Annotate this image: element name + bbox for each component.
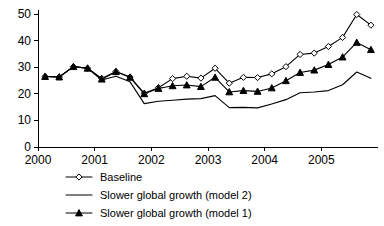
data-point-marker <box>339 34 345 40</box>
legend-item-3[interactable]: Slower global growth (model 1) <box>66 207 252 219</box>
line-chart: 01020304050 200020012002200320042005 Bas… <box>0 0 384 226</box>
y-tick-label: 20 <box>18 87 32 101</box>
data-point-marker <box>184 73 190 79</box>
legend-marker-diamond-icon <box>76 174 82 180</box>
x-axis-ticks: 200020012002200320042005 <box>25 147 335 167</box>
data-point-marker <box>311 67 318 73</box>
legend-item-label: Baseline <box>100 171 142 183</box>
chart-container: 01020304050 200020012002200320042005 Bas… <box>0 0 384 226</box>
data-point-marker <box>254 74 260 80</box>
data-point-marker <box>169 76 175 82</box>
y-tick-label: 30 <box>18 60 32 74</box>
data-point-marker <box>325 43 331 49</box>
chart-legend: BaselineSlower global growth (model 2)Sl… <box>66 171 252 219</box>
series-line <box>45 42 371 93</box>
data-point-marker <box>269 71 275 77</box>
data-point-marker <box>240 74 246 80</box>
x-tick-label: 2002 <box>138 153 165 167</box>
y-tick-label: 40 <box>18 34 32 48</box>
y-tick-label: 0 <box>24 140 31 154</box>
data-point-marker <box>212 74 219 80</box>
series-layer <box>42 11 375 107</box>
data-point-marker <box>353 39 360 45</box>
y-tick-label: 50 <box>18 7 32 21</box>
data-point-marker <box>325 61 332 67</box>
data-point-marker <box>311 50 317 56</box>
data-point-marker <box>283 77 290 83</box>
x-tick-label: 2000 <box>25 153 52 167</box>
y-tick-label: 10 <box>18 113 32 127</box>
legend-item-label: Slower global growth (model 2) <box>100 189 252 201</box>
legend-item-label: Slower global growth (model 1) <box>100 207 252 219</box>
data-point-marker <box>268 85 275 91</box>
series-3 <box>42 39 375 97</box>
x-tick-label: 2003 <box>195 153 222 167</box>
data-point-marker <box>368 46 375 52</box>
series-1 <box>42 11 374 96</box>
x-tick-label: 2004 <box>251 153 278 167</box>
x-tick-label: 2005 <box>308 153 335 167</box>
y-axis-ticks: 01020304050 <box>18 7 38 154</box>
legend-item-1[interactable]: Baseline <box>66 171 142 183</box>
x-tick-label: 2001 <box>81 153 108 167</box>
legend-item-2[interactable]: Slower global growth (model 2) <box>66 189 252 201</box>
